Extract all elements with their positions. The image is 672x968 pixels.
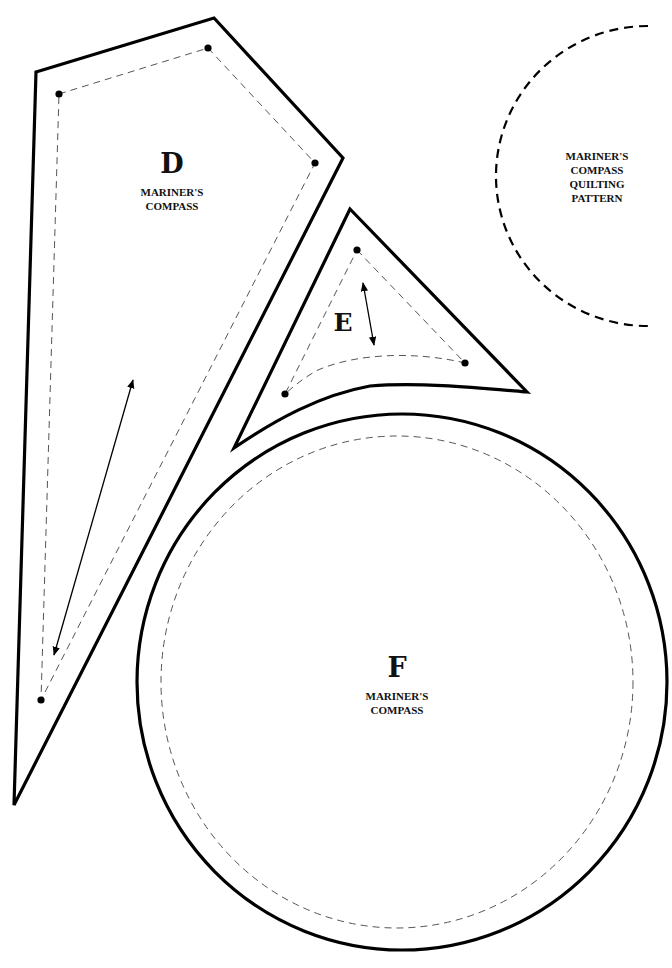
piece-d-corner-dot <box>204 44 211 51</box>
piece-f-line2: COMPASS <box>371 704 424 716</box>
piece-d-line1: MARINER'S <box>141 186 204 198</box>
piece-d-letter: D <box>160 148 183 179</box>
quilting-pattern-line2: COMPASS <box>571 164 624 176</box>
piece-d-corner-dot <box>37 696 44 703</box>
piece-d-line2: COMPASS <box>146 200 199 212</box>
quilting-pattern-arc <box>496 26 648 326</box>
piece-e-letter: E <box>333 308 352 337</box>
quilting-pattern-line1: MARINER'S <box>566 150 629 162</box>
piece-f: F MARINER'S COMPASS <box>137 414 667 950</box>
piece-f-line1: MARINER'S <box>366 690 429 702</box>
piece-e-corner-dot <box>353 246 360 253</box>
piece-e-corner-dot <box>461 359 468 366</box>
piece-d-corner-dot <box>55 90 62 97</box>
quilting-pattern-line3: QUILTING <box>569 178 625 190</box>
pattern-sheet: MARINER'S COMPASS QUILTING PATTERN D MAR… <box>0 0 672 968</box>
piece-e-corner-dot <box>281 390 288 397</box>
piece-f-letter: F <box>387 652 406 683</box>
piece-d-corner-dot <box>311 159 318 166</box>
quilting-pattern: MARINER'S COMPASS QUILTING PATTERN <box>496 26 648 326</box>
quilting-pattern-line4: PATTERN <box>572 192 623 204</box>
